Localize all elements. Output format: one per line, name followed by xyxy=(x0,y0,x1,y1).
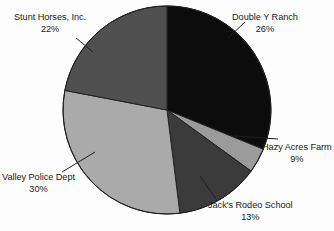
pie-label-percent-stunt-horses-inc: 22% xyxy=(14,24,86,36)
pie-label-percent-hazy-acres-farm: 9% xyxy=(262,154,332,166)
pie-label-hazy-acres-farm: Hazy Acres Farm 9% xyxy=(262,142,332,165)
pie-label-name-double-y-ranch: Double Y Ranch xyxy=(232,12,298,24)
pie-label-jacks-rodeo-school: Jack's Rodeo School 13% xyxy=(208,200,293,223)
pie-label-double-y-ranch: Double Y Ranch 26% xyxy=(232,12,298,35)
pie-chart: Double Y Ranch 26% Stunt Horses, Inc. 22… xyxy=(0,0,334,231)
pie-label-name-stunt-horses-inc: Stunt Horses, Inc. xyxy=(14,12,86,24)
pie-label-percent-jacks-rodeo-school: 13% xyxy=(208,212,293,224)
pie-label-name-jacks-rodeo-school: Jack's Rodeo School xyxy=(208,200,293,212)
pie-label-name-hazy-acres-farm: Hazy Acres Farm xyxy=(262,142,332,154)
pie-label-name-valley-police-dept: Valley Police Dept xyxy=(2,172,75,184)
pie-label-valley-police-dept: Valley Police Dept 30% xyxy=(2,172,75,195)
pie-label-stunt-horses-inc: Stunt Horses, Inc. 22% xyxy=(14,12,86,35)
pie-label-percent-double-y-ranch: 26% xyxy=(232,24,298,36)
pie-label-percent-valley-police-dept: 30% xyxy=(2,184,75,196)
